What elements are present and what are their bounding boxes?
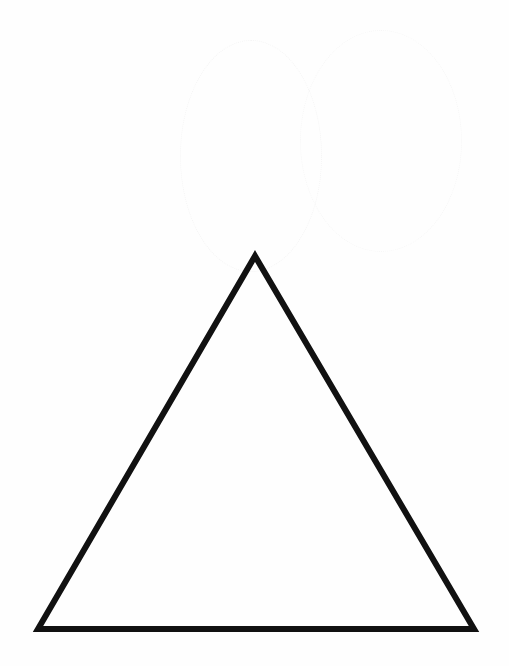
triangle-diagram bbox=[0, 0, 509, 666]
diagram-canvas bbox=[0, 0, 509, 666]
triangle-shape bbox=[38, 256, 474, 629]
